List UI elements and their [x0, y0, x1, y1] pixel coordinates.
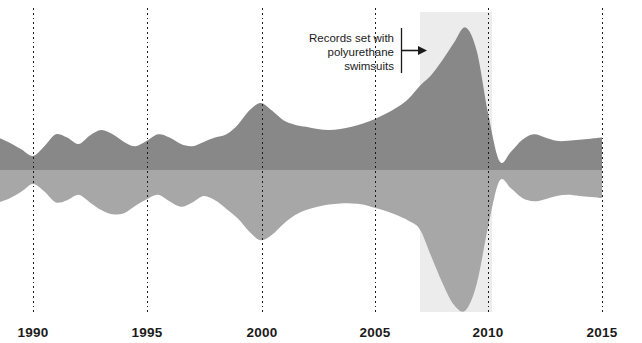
stream-band-lower: [0, 27, 602, 170]
x-axis-tick-label: 1995: [132, 325, 163, 340]
chart-canvas: 199019952000200520102015 Records set wit…: [0, 0, 642, 343]
stream-layers: [0, 27, 602, 311]
x-axis-tick-label: 1990: [18, 325, 49, 340]
x-axis-tick-label: 2010: [473, 325, 504, 340]
annotation-line-2: polyurethane: [328, 46, 395, 58]
annotation-line-3: swimsuits: [344, 60, 394, 72]
x-axis-tick-labels: 199019952000200520102015: [18, 325, 618, 340]
x-axis-tick-label: 2015: [587, 325, 618, 340]
streamgraph-figure: 199019952000200520102015 Records set wit…: [0, 0, 642, 343]
annotation-records-polyurethane: Records set with polyurethane swimsuits: [309, 28, 427, 73]
x-axis-tick-label: 2000: [247, 325, 278, 340]
x-axis-tick-label: 2005: [360, 325, 391, 340]
annotation-line-1: Records set with: [309, 32, 394, 44]
stream-band-upper: [0, 170, 602, 312]
